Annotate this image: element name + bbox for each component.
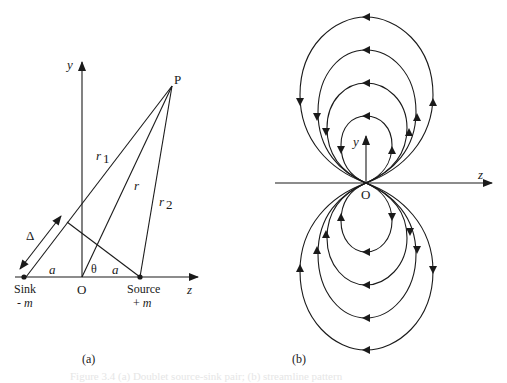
a-left-label: a	[49, 262, 56, 277]
r-label: r	[134, 178, 140, 193]
arrow-up-icon	[296, 264, 304, 272]
arrow-down-icon	[313, 113, 321, 121]
line-r	[82, 86, 172, 277]
y-axis-label-b: y	[351, 134, 359, 149]
bleed-through-text: Figure 3.4 (a) Doublet source-sink pair;…	[70, 370, 343, 383]
arrow-down-icon	[388, 213, 396, 221]
source-point	[137, 274, 142, 279]
arrow-down-icon	[429, 266, 437, 274]
sink-label: Sink	[14, 282, 36, 296]
arrow-down-icon	[296, 98, 304, 106]
sink-point	[21, 274, 26, 279]
figure-a	[15, 62, 198, 277]
arrow-up-icon	[322, 230, 330, 238]
streamline-lower-1	[300, 183, 433, 350]
arrow-left-icon	[362, 346, 370, 354]
point-p-label: P	[174, 72, 181, 87]
z-axis-label-a: z	[186, 282, 192, 297]
arrow-left-icon	[362, 281, 370, 289]
arrow-down-icon	[337, 146, 345, 154]
arrow-left-icon	[362, 79, 370, 87]
doublet-figure: y P r1 r r2 Δ a θ a Sink - m O Source + …	[0, 0, 507, 383]
arrow-left-icon	[362, 46, 370, 54]
theta-label: θ	[91, 262, 97, 276]
origin-label-a: O	[77, 282, 86, 297]
y-axis-label-a: y	[65, 57, 73, 72]
arrow-left-icon	[362, 13, 370, 21]
origin-label-b: O	[361, 187, 370, 202]
a-right-label: a	[112, 262, 119, 277]
source-label: Source	[127, 282, 160, 296]
r2-label: r2	[159, 194, 173, 212]
arrow-up-icon	[413, 113, 421, 121]
arrow-up-icon	[337, 213, 345, 221]
arrow-left-icon	[362, 314, 370, 322]
arrow-up-icon	[405, 128, 413, 136]
source-strength-label: + m	[133, 296, 152, 310]
line-r1	[26, 86, 172, 277]
arrow-left-icon	[362, 112, 370, 120]
arrow-down-icon	[322, 128, 330, 136]
caption-b: (b)	[292, 352, 306, 366]
arrow-left-icon	[362, 248, 370, 256]
z-axis-label-b: z	[477, 167, 483, 182]
arrow-up-icon	[388, 146, 396, 154]
line-r2	[140, 86, 172, 277]
arrow-down-icon	[413, 246, 421, 254]
figure-b	[275, 17, 492, 350]
arrow-up-icon	[313, 246, 321, 254]
delta-label: Δ	[26, 228, 34, 243]
caption-a: (a)	[82, 352, 95, 366]
sink-strength-label: - m	[17, 296, 33, 310]
r1-label: r1	[96, 148, 110, 166]
arrow-up-icon	[429, 98, 437, 106]
